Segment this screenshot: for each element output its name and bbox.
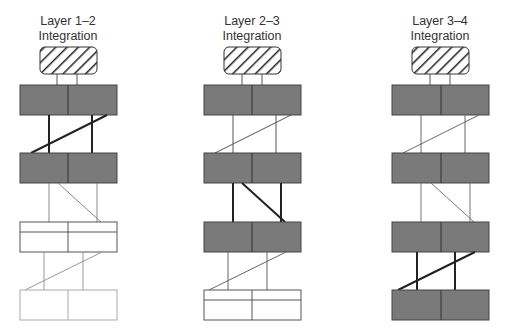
hatched-integration-block [40,47,97,74]
layer-2-box [204,153,301,183]
layer-3-box [392,222,489,252]
column-3 [392,47,489,320]
layer-1-box [392,85,489,115]
column-1 [20,47,117,320]
hatched-integration-block [412,47,469,74]
hatched-integration-block [224,47,281,74]
layer-1-box [20,85,117,115]
layer-3-box-split [20,222,117,252]
layer-3-box [204,222,301,252]
layer-2-box [392,153,489,183]
layer-1-box [204,85,301,115]
layer-4-box [392,290,489,320]
layer-4-box-empty [20,290,117,320]
layer-4-box-split [204,290,301,320]
integration-diagram [0,0,508,331]
layer-2-box [20,153,117,183]
column-2 [204,47,301,320]
